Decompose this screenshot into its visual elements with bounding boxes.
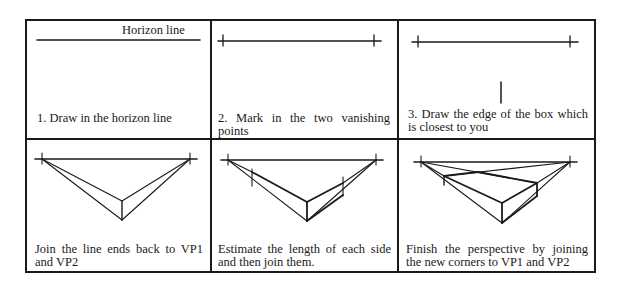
- panel-5-caption: Estimate the length of each side and the…: [218, 243, 391, 269]
- panel-6-caption: Finish the perspective by joining the ne…: [406, 243, 588, 269]
- panel-4-join-lines: [35, 153, 197, 220]
- panel-2-caption: 2. Mark in the two vanishing points: [218, 112, 390, 138]
- panel-6-finished-box: [414, 156, 577, 223]
- panel-4-caption: Join the line ends back to VP1 and VP2: [35, 243, 203, 269]
- panel-3-caption: 3. Draw the edge of the box which is clo…: [408, 108, 588, 134]
- horizon-line-label: Horizon line: [122, 23, 185, 38]
- panel-3-closest-edge: [412, 36, 578, 103]
- panel-1-caption: 1. Draw in the horizon line: [37, 112, 202, 125]
- panel-2-vanishing-points: [218, 35, 381, 46]
- panel-5-estimate-sides: [221, 154, 383, 221]
